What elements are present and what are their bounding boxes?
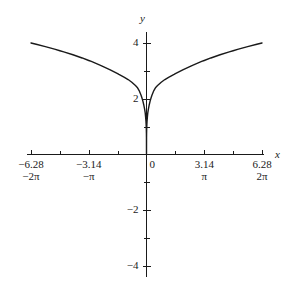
x-tick-label: 3.14π bbox=[182, 158, 226, 182]
x-tick-label: −6.28−2π bbox=[9, 158, 53, 182]
y-tick-label: 2 bbox=[109, 93, 139, 104]
x-tick-value: 6.28 bbox=[240, 158, 284, 170]
x-tick-symbol: −π bbox=[67, 170, 111, 182]
x-tick-value: −6.28 bbox=[9, 158, 53, 170]
x-tick-symbol: 2π bbox=[240, 170, 284, 182]
x-tick-symbol: π bbox=[182, 170, 226, 182]
x-tick-value: 3.14 bbox=[182, 158, 226, 170]
x-tick-label: 0 bbox=[150, 158, 170, 170]
y-axis-label: y bbox=[140, 13, 145, 24]
x-tick-value: 0 bbox=[150, 158, 170, 170]
chart-figure: y x −6.28−2π−3.14−π03.14π6.282π −4−224 bbox=[0, 0, 295, 300]
x-tick-label: −3.14−π bbox=[67, 158, 111, 182]
y-tick-label: −4 bbox=[109, 260, 139, 271]
x-tick-label: 6.282π bbox=[240, 158, 284, 182]
x-tick-value: −3.14 bbox=[67, 158, 111, 170]
x-tick-symbol: −2π bbox=[9, 170, 53, 182]
y-tick-label: 4 bbox=[109, 37, 139, 48]
axes-group bbox=[27, 32, 264, 277]
plot-canvas bbox=[0, 0, 295, 300]
y-tick-label: −2 bbox=[109, 204, 139, 215]
